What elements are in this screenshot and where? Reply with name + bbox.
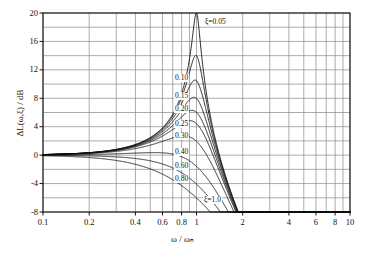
curve-label: 0.30 (174, 132, 189, 140)
y-tick-label: 12 (30, 64, 39, 74)
tick-marks (40, 13, 351, 216)
curve-label: ξ=0.05 (204, 18, 227, 26)
curve-label: 0.80 (174, 175, 189, 183)
x-tick-label: 2 (229, 217, 257, 227)
curve-label: 0.60 (174, 162, 189, 170)
x-tick-label: 0.2 (75, 217, 103, 227)
y-tick-label: 0 (34, 150, 38, 160)
curve-label: 0.15 (174, 92, 189, 100)
x-tick-label: 0.1 (29, 217, 57, 227)
x-tick-label: 10 (336, 217, 364, 227)
x-axis-label: ω / ωₙ (0, 234, 365, 244)
x-tick-label: 1 (183, 217, 211, 227)
y-tick-label: 16 (30, 36, 39, 46)
y-tick-label: 4 (34, 121, 38, 131)
curve-label: 0.25 (174, 120, 189, 128)
curve-label: 0.20 (174, 105, 189, 113)
curve-label: 0.40 (174, 148, 189, 156)
y-tick-label: 8 (34, 93, 38, 103)
curve-label: 0.10 (174, 74, 189, 82)
figure-container: ΔL(ω,ξ) / dB ω / ωₙ 201612840-4-80.10.20… (0, 0, 365, 253)
y-axis-label: ΔL(ω,ξ) / dB (15, 53, 25, 173)
x-tick-label: 4 (275, 217, 303, 227)
y-tick-label: 20 (30, 8, 39, 18)
y-tick-label: -4 (31, 178, 38, 188)
y-tick-label: -8 (31, 207, 38, 217)
x-tick-label: 0.4 (121, 217, 149, 227)
curve-label: ξ=1.0 (203, 196, 222, 204)
